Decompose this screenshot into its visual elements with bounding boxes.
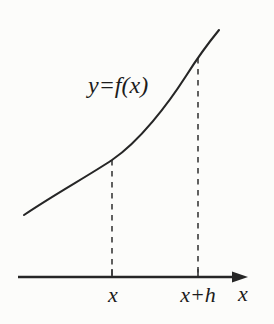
tick-label-x: x xyxy=(107,282,118,307)
graph-canvas: y=f(x) x x+h x xyxy=(0,0,274,324)
axis-label-x: x xyxy=(237,281,248,306)
curve-label: y=f(x) xyxy=(86,72,148,98)
tick-label-x-plus-h: x+h xyxy=(179,282,216,307)
function-graph-figure: y=f(x) x x+h x xyxy=(0,0,274,324)
function-curve xyxy=(24,30,219,215)
